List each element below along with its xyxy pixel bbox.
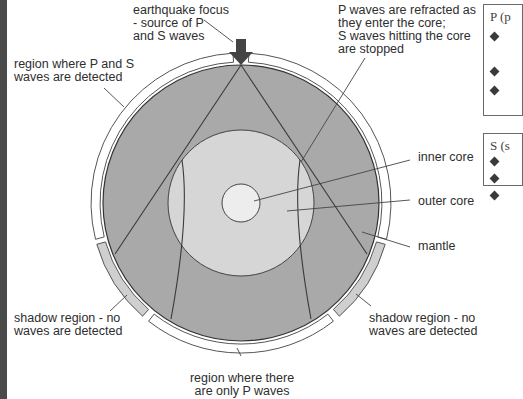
inner-core-label: inner core	[418, 151, 474, 164]
s-wave-box-title: S (s	[490, 138, 510, 154]
shadow-left-label: shadow region - no waves are detected	[14, 312, 122, 338]
focus-label: earthquake focus - source of P and S wav…	[133, 4, 229, 43]
outer-core-label: outer core	[418, 195, 474, 208]
bullet-icon	[490, 67, 500, 77]
refraction-label: P waves are refracted as they enter the …	[338, 4, 476, 56]
bullet-icon	[490, 32, 500, 42]
shadow-right-label: shadow region - no waves are detected	[369, 312, 477, 338]
bullet-icon	[490, 174, 500, 184]
inner-core	[222, 184, 260, 222]
bullet-icon	[490, 86, 500, 96]
mantle-label: mantle	[418, 240, 456, 253]
s-wave-info-box: S (s	[483, 133, 523, 186]
p-and-s-region-label: region where P and S waves are detected	[14, 58, 134, 84]
p-wave-info-box: P (p	[483, 4, 523, 116]
bullet-icon	[490, 157, 500, 167]
p-wave-box-title: P (p	[490, 9, 511, 25]
p-only-region-label: region where there are only P waves	[180, 372, 304, 398]
